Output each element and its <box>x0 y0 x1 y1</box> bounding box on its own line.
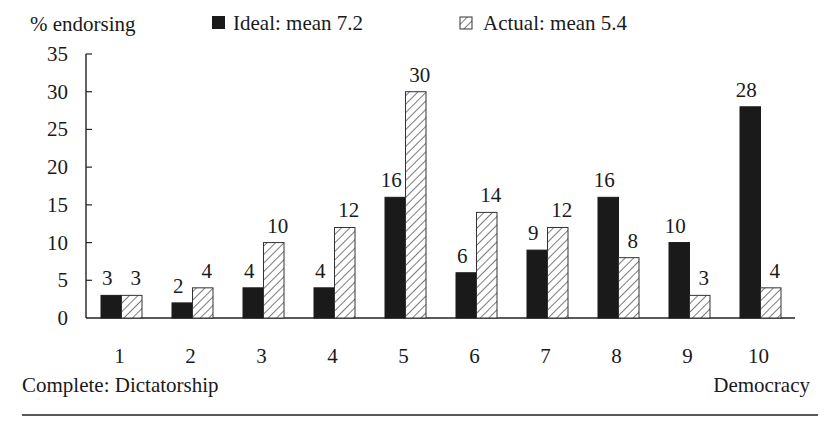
data-label-ideal: 4 <box>315 259 326 283</box>
data-label-ideal: 6 <box>457 244 468 268</box>
data-label-ideal: 9 <box>528 221 539 245</box>
y-tick-label: 20 <box>47 155 68 179</box>
x-tick-label: 5 <box>398 344 409 368</box>
legend-label-actual: Actual: mean 5.4 <box>483 11 628 35</box>
legend: Ideal: mean 7.2 Actual: mean 5.4 <box>212 11 628 35</box>
y-axis-label: % endorsing <box>30 12 136 36</box>
data-label-ideal: 2 <box>173 274 184 298</box>
data-label-ideal: 28 <box>736 78 757 102</box>
data-label-actual: 4 <box>770 259 781 283</box>
data-label-actual: 3 <box>699 266 710 290</box>
bar-actual <box>335 227 356 318</box>
y-tick-label: 0 <box>58 306 69 330</box>
bar-actual <box>690 295 711 318</box>
bar-ideal <box>172 303 193 318</box>
bar-actual <box>761 288 782 318</box>
bar-actual <box>548 227 569 318</box>
x-tick-label: 2 <box>185 344 196 368</box>
data-label-actual: 8 <box>628 229 639 253</box>
y-tick-label: 30 <box>47 80 68 104</box>
bar-actual <box>477 212 498 318</box>
y-tick-label: 15 <box>47 193 68 217</box>
bar-actual <box>122 295 143 318</box>
x-tick-label: 9 <box>682 344 693 368</box>
x-tick-label: 3 <box>256 344 267 368</box>
x-axis-label-left: Complete: Dictatorship <box>22 373 219 397</box>
x-tick-label: 6 <box>469 344 480 368</box>
x-tick-label: 4 <box>327 344 338 368</box>
y-tick-label: 35 <box>47 42 68 66</box>
bars: 33244104121630614912168103284 <box>101 63 781 318</box>
data-label-actual: 12 <box>338 198 359 222</box>
bar-actual <box>193 288 214 318</box>
x-tick-labels: 12345678910 <box>114 344 769 368</box>
bar-ideal <box>527 250 548 318</box>
legend-swatch-ideal <box>212 16 225 29</box>
bar-ideal <box>243 288 264 318</box>
bar-ideal <box>598 197 619 318</box>
x-tick-label: 7 <box>540 344 551 368</box>
data-label-ideal: 4 <box>244 259 255 283</box>
data-label-ideal: 10 <box>665 214 686 238</box>
legend-swatch-actual <box>460 17 472 29</box>
data-label-actual: 10 <box>267 214 288 238</box>
bar-ideal <box>669 243 690 318</box>
data-label-actual: 12 <box>551 198 572 222</box>
data-label-actual: 4 <box>202 259 213 283</box>
data-label-ideal: 16 <box>381 168 402 192</box>
bar-actual <box>619 258 640 318</box>
data-label-actual: 14 <box>480 183 502 207</box>
bar-chart: % endorsing Ideal: mean 7.2 Actual: mean… <box>0 0 832 431</box>
x-axis-label-right: Democracy <box>713 373 810 397</box>
bar-actual <box>406 92 427 318</box>
data-label-actual: 3 <box>131 266 142 290</box>
bar-ideal <box>385 197 406 318</box>
x-tick-label: 10 <box>748 344 769 368</box>
y-tick-label: 25 <box>47 117 68 141</box>
x-tick-label: 1 <box>114 344 125 368</box>
y-tick-label: 10 <box>47 231 68 255</box>
bar-ideal <box>456 273 477 318</box>
data-label-ideal: 3 <box>102 266 113 290</box>
legend-label-ideal: Ideal: mean 7.2 <box>233 11 363 35</box>
data-label-ideal: 16 <box>594 168 615 192</box>
y-tick-label: 5 <box>58 268 69 292</box>
bar-ideal <box>314 288 335 318</box>
bar-ideal <box>101 295 122 318</box>
bar-ideal <box>740 107 761 318</box>
x-tick-label: 8 <box>611 344 622 368</box>
data-label-actual: 30 <box>409 63 430 87</box>
bar-actual <box>264 243 285 318</box>
